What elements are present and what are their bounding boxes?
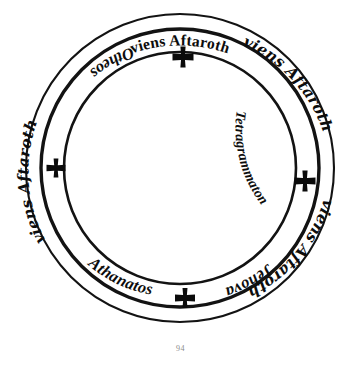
inner-band-text-otheos: Otheos [86,44,137,83]
magic-circle-figure: viens Aftaroth viens Aftaroth viens Afta… [0,0,361,369]
page-number: 94 [0,344,361,353]
magic-circle-canvas: viens Aftaroth viens Aftaroth viens Afta… [0,0,361,369]
inner-band-text-tetragrammaton: Tetragrammaton [232,110,272,207]
cross-left-icon [47,159,66,178]
cross-top-icon [173,47,194,68]
cross-right-icon [295,171,316,192]
inner-ring [64,52,296,284]
